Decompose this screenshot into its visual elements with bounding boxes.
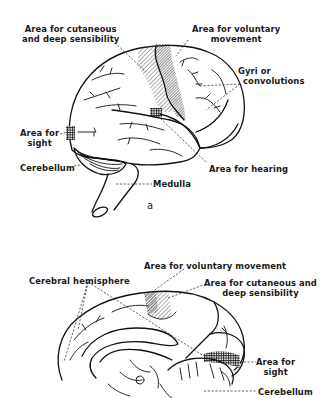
label-cerebral-hemisphere: Cerebral hemisphere (29, 276, 130, 286)
label-cutaneous-sensibility-b: Area for cutaneous and deep sensibility (204, 278, 317, 298)
label-medulla: Medulla (153, 179, 191, 189)
label-line: sight (256, 367, 295, 377)
figure-letter-a: a (147, 200, 153, 211)
label-line: convolutions (236, 76, 305, 86)
label-cerebellum-b: Cerebellum (258, 387, 313, 397)
label-line: movement (192, 34, 280, 44)
label-line: Area for (20, 128, 59, 138)
label-area-for-sight-a: Area for sight (20, 128, 59, 148)
label-cutaneous-sensibility-a: Area for cutaneous and deep sensibility (22, 24, 119, 44)
label-line: sight (20, 138, 59, 148)
label-gyri-convolutions: Gyri or convolutions (236, 66, 305, 86)
label-line: Area for cutaneous and (204, 278, 317, 288)
label-line: Area for (256, 357, 295, 367)
label-line: deep sensibility (204, 288, 317, 298)
label-voluntary-movement-a: Area for voluntary movement (192, 24, 280, 44)
brain-illustrations (0, 0, 329, 398)
brain-diagram-canvas: Area for cutaneous and deep sensibility … (0, 0, 329, 398)
label-line: Area for cutaneous (22, 24, 119, 34)
label-line: Gyri or (236, 66, 305, 76)
label-area-for-hearing: Area for hearing (209, 164, 288, 174)
label-line: Area for voluntary (192, 24, 280, 34)
label-voluntary-movement-b: Area for voluntary movement (144, 261, 286, 271)
label-area-for-sight-b: Area for sight (256, 357, 295, 377)
label-cerebellum-a: Cerebellum (20, 163, 75, 173)
label-line: and deep sensibility (22, 34, 119, 44)
lateral-brain-figure (60, 40, 244, 219)
